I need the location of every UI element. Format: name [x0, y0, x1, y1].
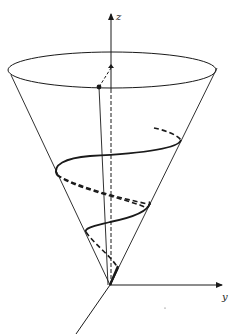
z-axis-label: z — [115, 11, 122, 22]
speck — [164, 307, 165, 308]
helix-visible-segments — [56, 140, 181, 285]
conical-helix-diagram: z y — [0, 0, 231, 334]
x-axis — [76, 285, 110, 334]
cone-sides — [11, 68, 217, 285]
cone-rim — [8, 52, 216, 88]
y-axis-label: y — [221, 291, 228, 302]
